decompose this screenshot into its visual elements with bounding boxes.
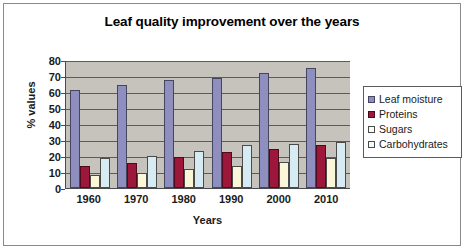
bar[interactable] bbox=[184, 169, 194, 188]
bar[interactable] bbox=[212, 78, 222, 188]
y-tick-label: 50 bbox=[39, 103, 61, 115]
chart-frame: Leaf quality improvement over the years … bbox=[3, 3, 461, 246]
bar[interactable] bbox=[279, 162, 289, 188]
y-tick-label: 0 bbox=[39, 183, 61, 195]
bar[interactable] bbox=[117, 85, 127, 188]
bar[interactable] bbox=[259, 73, 269, 188]
legend-item[interactable]: Proteins bbox=[368, 108, 458, 120]
y-axis-label: % values bbox=[25, 75, 37, 135]
x-axis-label: Years bbox=[65, 214, 350, 226]
y-tick-mark bbox=[61, 189, 65, 190]
plot-area bbox=[65, 61, 350, 189]
legend-swatch-icon bbox=[368, 96, 375, 103]
y-tick-label: 30 bbox=[39, 135, 61, 147]
bar[interactable] bbox=[194, 151, 204, 188]
legend-swatch-icon bbox=[368, 141, 375, 148]
y-tick-mark bbox=[61, 109, 65, 110]
y-tick-mark bbox=[61, 125, 65, 126]
y-tick-mark bbox=[61, 93, 65, 94]
bar[interactable] bbox=[90, 175, 100, 188]
x-tick-label: 1970 bbox=[113, 193, 160, 205]
y-tick-label: 10 bbox=[39, 167, 61, 179]
bar-group bbox=[212, 61, 252, 188]
legend-swatch-icon bbox=[368, 126, 375, 133]
legend-label: Proteins bbox=[379, 108, 418, 120]
bar[interactable] bbox=[242, 145, 252, 188]
bar[interactable] bbox=[100, 158, 110, 188]
x-tick-label: 1990 bbox=[208, 193, 255, 205]
bar[interactable] bbox=[316, 145, 326, 188]
bar[interactable] bbox=[326, 158, 336, 188]
legend-item[interactable]: Leaf moisture bbox=[368, 93, 458, 105]
bar-group bbox=[70, 61, 110, 188]
bar[interactable] bbox=[232, 166, 242, 188]
y-tick-label: 60 bbox=[39, 87, 61, 99]
bar[interactable] bbox=[127, 163, 137, 188]
legend-label: Leaf moisture bbox=[379, 93, 443, 105]
x-tick-label: 1980 bbox=[160, 193, 207, 205]
bar-group bbox=[306, 61, 346, 188]
bar[interactable] bbox=[80, 166, 90, 188]
y-tick-label: 40 bbox=[39, 119, 61, 131]
bars-layer bbox=[66, 61, 350, 188]
y-tick-mark bbox=[61, 173, 65, 174]
bar[interactable] bbox=[336, 142, 346, 188]
bar[interactable] bbox=[147, 156, 157, 188]
bar[interactable] bbox=[269, 149, 279, 188]
y-tick-label: 20 bbox=[39, 151, 61, 163]
bar[interactable] bbox=[222, 152, 232, 188]
bar[interactable] bbox=[164, 80, 174, 188]
y-tick-mark bbox=[61, 141, 65, 142]
bar-group bbox=[117, 61, 157, 188]
bar[interactable] bbox=[289, 144, 299, 188]
bar[interactable] bbox=[70, 90, 80, 188]
x-tick-label: 2010 bbox=[303, 193, 350, 205]
legend-item[interactable]: Sugars bbox=[368, 123, 458, 135]
bar[interactable] bbox=[137, 173, 147, 188]
x-axis-ticks: 196019701980199020002010 bbox=[65, 193, 350, 205]
y-axis-ticks: 01020304050607080 bbox=[37, 61, 61, 189]
legend-item[interactable]: Carbohydrates bbox=[368, 138, 458, 150]
y-tick-mark bbox=[61, 61, 65, 62]
bar[interactable] bbox=[174, 157, 184, 188]
x-tick-label: 1960 bbox=[65, 193, 112, 205]
bar-group bbox=[259, 61, 299, 188]
y-tick-mark bbox=[61, 77, 65, 78]
x-tick-label: 2000 bbox=[255, 193, 302, 205]
chart-legend: Leaf moistureProteinsSugarsCarbohydrates bbox=[363, 86, 462, 158]
y-tick-label: 70 bbox=[39, 71, 61, 83]
legend-label: Carbohydrates bbox=[379, 138, 448, 150]
y-tick-mark bbox=[61, 157, 65, 158]
bar[interactable] bbox=[306, 68, 316, 188]
legend-swatch-icon bbox=[368, 111, 375, 118]
legend-label: Sugars bbox=[379, 123, 412, 135]
chart-title: Leaf quality improvement over the years bbox=[4, 14, 460, 29]
bar-group bbox=[164, 61, 204, 188]
y-tick-label: 80 bbox=[39, 55, 61, 67]
